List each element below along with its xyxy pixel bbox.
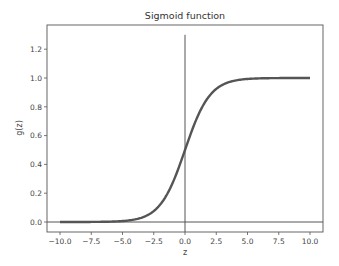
y-tick-label: 1.0 <box>30 74 42 83</box>
x-tick-label: −5.0 <box>113 237 131 246</box>
x-tick-label: −2.5 <box>145 237 163 246</box>
y-tick-label: 0.4 <box>30 160 42 169</box>
x-tick-label: 7.5 <box>273 237 285 246</box>
plot-area <box>47 35 323 232</box>
x-axis-ticks: −10.0−7.5−5.0−2.50.02.55.07.510.0 <box>49 232 319 246</box>
sigmoid-chart: Sigmoid function −10.0−7.5−5.0−2.50.02.5… <box>0 0 339 266</box>
x-tick-label: 0.0 <box>179 237 191 246</box>
x-tick-label: 10.0 <box>302 237 319 246</box>
x-tick-label: 2.5 <box>210 237 222 246</box>
y-axis-ticks: 0.00.20.40.60.81.01.2 <box>30 45 47 227</box>
y-tick-label: 0.8 <box>30 103 42 112</box>
y-axis-label: g(z) <box>15 120 24 136</box>
x-tick-label: 5.0 <box>242 237 254 246</box>
x-tick-label: −10.0 <box>49 237 72 246</box>
y-tick-label: 0.2 <box>30 189 42 198</box>
y-tick-label: 0.0 <box>30 218 42 227</box>
x-axis-label: z <box>183 248 187 257</box>
y-tick-label: 0.6 <box>30 131 42 140</box>
y-tick-label: 1.2 <box>30 45 42 54</box>
x-tick-label: −7.5 <box>82 237 100 246</box>
chart-title: Sigmoid function <box>145 10 225 21</box>
